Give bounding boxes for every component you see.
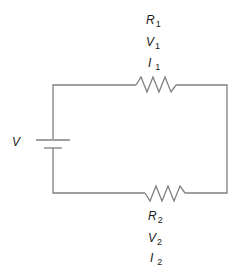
svg-text:I2: I2 — [150, 251, 162, 267]
wire-bottom-left — [53, 148, 145, 193]
resistor-r1 — [136, 77, 176, 92]
svg-text:I1: I1 — [148, 56, 160, 72]
svg-text:V2: V2 — [148, 231, 162, 247]
svg-text:R1: R1 — [146, 13, 161, 29]
r2-labels: R2 V2 I2 — [148, 209, 163, 267]
svg-text:V1: V1 — [146, 35, 160, 51]
circuit-diagram: V R1 V1 I1 R2 V2 I2 — [0, 0, 235, 278]
wire-right — [176, 85, 227, 193]
r1-labels: R1 V1 I1 — [146, 13, 161, 72]
wire-top-left — [53, 85, 136, 139]
svg-text:R2: R2 — [148, 209, 163, 225]
resistor-r2 — [145, 186, 185, 201]
source-voltage-label: V — [12, 135, 21, 149]
